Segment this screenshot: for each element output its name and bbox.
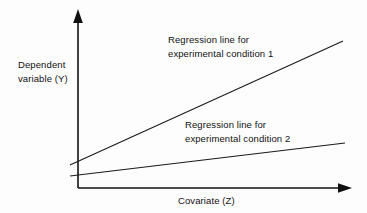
regression-line-condition-1-label: Regression line for experimental conditi… <box>168 33 313 60</box>
x-axis-arrowhead-icon <box>338 183 352 193</box>
y-axis-arrowhead-icon <box>73 9 83 23</box>
y-axis-label: Dependent variable (Y) <box>18 58 88 85</box>
regression-line-condition-2-label: Regression line for experimental conditi… <box>185 118 330 145</box>
analysis-of-covariance-diagram: Dependent variable (Y) Covariate (Z) Reg… <box>0 0 367 213</box>
x-axis-label: Covariate (Z) <box>178 194 298 208</box>
diagram-canvas <box>0 0 367 213</box>
regression-line-condition-2 <box>70 143 345 176</box>
